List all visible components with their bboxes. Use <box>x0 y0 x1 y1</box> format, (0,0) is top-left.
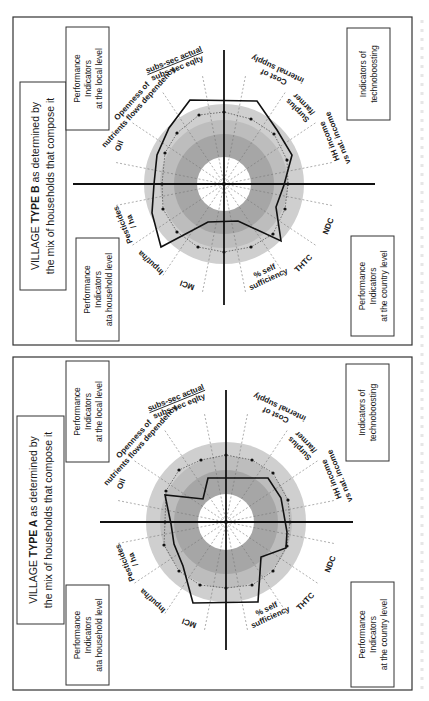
box-text: technoboosting <box>369 45 379 103</box>
self-sufficiency-label: % selfsufficiency <box>244 258 290 292</box>
box-text: Performance <box>357 610 367 659</box>
panel-title: VILLAGE TYPE A as determined by <box>27 435 39 603</box>
reference-point <box>249 117 252 120</box>
axis-label-text: THTC <box>293 253 315 275</box>
panel-title: VILLAGE TYPE B as determined by <box>29 101 41 270</box>
figure-stage: VILLAGE TYPE B as determined bythe mix o… <box>0 0 429 701</box>
panel-subtitle: the mix of households that compose it <box>44 98 56 274</box>
title-box <box>20 82 66 290</box>
axis-label-text: MCI <box>179 278 196 291</box>
reference-point <box>198 583 201 586</box>
reference-point <box>199 458 202 461</box>
reference-point <box>250 458 253 461</box>
panel-subtitle: the mix of households that compose it <box>42 432 54 608</box>
box-text: Indicators <box>368 268 378 305</box>
axis-label-text: MCI <box>181 616 198 629</box>
center-point <box>222 182 226 186</box>
mci-label: MCI <box>179 278 196 291</box>
surplus-farmer-label: Surplus/farmer <box>285 428 319 462</box>
reference-point <box>271 232 274 235</box>
reference-point <box>175 230 178 233</box>
reference-point <box>272 132 275 135</box>
box-text: Indicators of <box>358 50 368 97</box>
mci-label: MCI <box>181 616 198 629</box>
self-sufficiency-label: % selfsufficiency <box>246 596 292 630</box>
reference-point <box>286 498 289 501</box>
subs-sec-label: subs-sec actualsubs-sec eqlty <box>144 44 206 83</box>
reference-point <box>162 543 165 546</box>
box-text: Indicators <box>83 393 93 430</box>
box-text: ata household level <box>94 598 104 671</box>
box-text: Performance <box>72 54 82 103</box>
title-box <box>17 416 64 624</box>
ndc-label: NDC <box>323 554 338 574</box>
reference-point <box>197 113 200 116</box>
axis-label-text: Input/ha <box>136 248 165 276</box>
radar-figure: VILLAGE TYPE B as determined bythe mix o… <box>0 0 429 701</box>
reference-point <box>285 158 288 161</box>
reference-point <box>177 468 180 471</box>
axis-label-text: Oil <box>115 477 127 490</box>
box-text: Indicators <box>93 271 103 308</box>
oil-label: Oil <box>113 139 125 152</box>
oil-label: Oil <box>115 477 127 490</box>
reference-point <box>161 207 164 210</box>
box-text: Performance <box>72 610 82 659</box>
axis-label-text: Input/ha <box>138 586 167 614</box>
box-text: Performance <box>82 265 92 314</box>
reference-point <box>271 569 274 572</box>
axis-label-text: Oil <box>113 139 125 152</box>
box-text: at the country level <box>379 599 389 670</box>
reference-point <box>175 131 178 134</box>
axis-label-text: THTC <box>295 591 317 613</box>
reference-point <box>164 489 167 492</box>
reference-point <box>163 151 166 154</box>
box-text: Indicators <box>83 617 93 654</box>
reference-point <box>196 245 199 248</box>
axis-label-text: NDC <box>321 216 336 236</box>
thtc-label: THTC <box>293 253 315 275</box>
subs-sec-label: subs-sec actualsubs-sec eqlty <box>146 382 208 421</box>
box-text: at the local level <box>94 48 104 109</box>
box-text: ata household level <box>104 253 114 326</box>
village-type-a-panel: VILLAGE TYPE A as determined bythe mix o… <box>13 357 412 690</box>
box-text: Performance <box>357 261 367 310</box>
axis-label-text: NDC <box>323 554 338 574</box>
reference-point <box>283 207 286 210</box>
reference-point <box>271 471 274 474</box>
surplus-farmer-label: Surplus/farmer <box>283 90 317 124</box>
box-text: Indicators <box>83 60 93 97</box>
reference-point <box>249 245 252 248</box>
village-type-b-panel: VILLAGE TYPE B as determined bythe mix o… <box>13 17 412 345</box>
ndc-label: NDC <box>321 216 336 236</box>
box-text: at the local level <box>94 381 104 442</box>
reference-point <box>250 583 253 586</box>
center-point <box>224 520 228 524</box>
reference-point <box>177 569 180 572</box>
input-ha-label: Input/ha <box>136 248 165 276</box>
box-text: Performance <box>72 387 82 436</box>
box-text: at the country level <box>379 250 389 321</box>
input-ha-label: Input/ha <box>138 586 167 614</box>
thtc-label: THTC <box>295 591 317 613</box>
box-text: Indicators of <box>357 389 367 436</box>
box-text: technoboosting <box>368 383 378 441</box>
cost-internal-supply-label: Cost ofinternal supply <box>246 53 306 94</box>
cost-internal-supply-label: Cost ofinternal supply <box>248 391 308 432</box>
box-text: Indicators <box>368 616 378 653</box>
pesticides-label: Pesticides/ ha <box>113 539 145 583</box>
